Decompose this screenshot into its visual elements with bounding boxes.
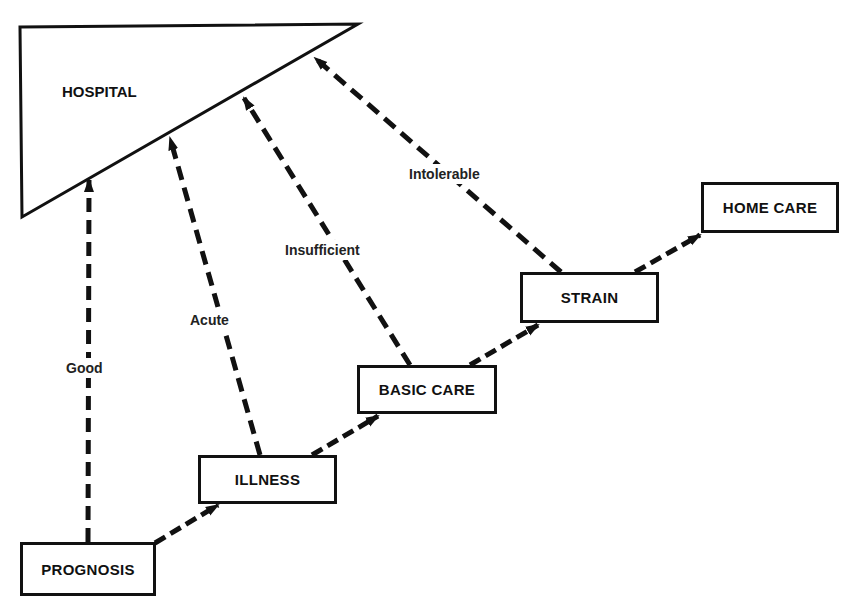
edge-acute <box>170 138 260 455</box>
edge-label-acute: Acute <box>190 310 229 330</box>
edge-label-intolerable: Intolerable <box>409 164 480 184</box>
edge-illness-basic-care <box>312 416 378 455</box>
edge-prognosis-illness <box>155 505 218 543</box>
node-home-care: HOME CARE <box>701 182 839 233</box>
node-illness: ILLNESS <box>198 455 337 504</box>
edge-strain-home-care <box>635 235 700 272</box>
node-prognosis: PROGNOSIS <box>20 542 156 596</box>
hospital-shape <box>20 24 358 217</box>
edge-label-insufficient: Insufficient <box>285 240 360 260</box>
node-strain: STRAIN <box>520 272 659 323</box>
edge-label-good: Good <box>66 358 103 378</box>
edge-insufficient <box>244 98 410 365</box>
hospital-label: HOSPITAL <box>62 83 137 100</box>
edge-basic-care-strain <box>470 325 538 365</box>
node-basic-care: BASIC CARE <box>357 365 497 414</box>
